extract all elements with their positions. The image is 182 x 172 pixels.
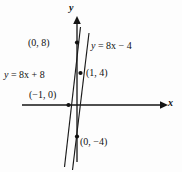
y-axis-label: y [69,3,73,13]
x-axis-arrowhead [160,101,168,109]
x-axis-label: x [168,98,173,108]
point-marker-neg1-0 [66,103,70,107]
point-label-neg1-0: (−1, 0) [29,90,56,100]
line-y-equals-8x-plus-8 [65,27,81,167]
point-marker-0-8 [75,40,79,44]
y-axis-arrowhead [73,16,81,24]
point-label-0-8: (0, 8) [28,38,50,48]
point-label-0-neg4: (0, −4) [80,137,107,147]
point-marker-1-4 [78,71,82,75]
equation-label-right: y = 8x − 4 [91,41,132,51]
x-axis [22,101,168,109]
point-marker-0-neg4 [75,134,79,138]
graph-figure: y x (0, 8) (1, 4) (−1, 0) (0, −4) y = 8x… [0,0,182,172]
line-y-equals-8x-minus-4 [73,33,90,170]
point-label-1-4: (1, 4) [86,68,108,78]
equation-label-left: y = 8x + 8 [4,70,45,80]
